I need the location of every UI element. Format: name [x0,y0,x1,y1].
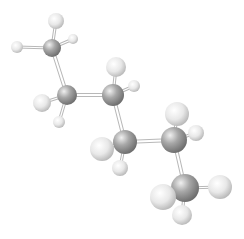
carbon-atom-C4 [113,130,137,154]
hydrogen-atom-H2a [33,94,51,112]
hydrogen-atom-H4a [90,137,114,161]
carbon-atom-C3 [102,84,124,106]
carbon-atom-C1 [43,39,61,57]
carbon-atom-C2 [57,85,77,105]
hydrogen-atom-H6c [172,205,192,225]
hydrogen-atom-H3a [106,57,126,77]
hydrogen-atom-H2b [53,116,65,128]
hydrogen-atom-H5a [165,102,189,126]
hydrogen-atom-H3b [128,80,140,92]
hydrogen-atom-H1b [11,41,23,53]
hydrogen-atom-H6a [150,184,176,210]
molecule-model-hexane [0,0,244,239]
hydrogen-atom-H6b [208,175,232,199]
hydrogen-atom-H1a [48,13,64,29]
atoms-layer [11,13,232,225]
hydrogen-atom-H1c [68,34,78,44]
hydrogen-atom-H5b [188,125,204,141]
hydrogen-atom-H4b [112,160,128,176]
carbon-atom-C5 [161,127,187,153]
